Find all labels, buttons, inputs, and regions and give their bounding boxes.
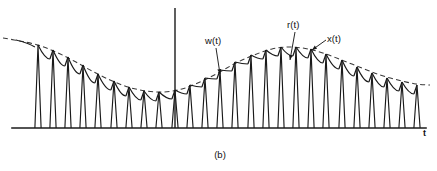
sampling-pulse [278,47,284,128]
label-rt: r(t) [287,19,300,30]
sampling-pulse [339,60,345,128]
label-xt: x(t) [327,33,341,44]
sampling-waveform-figure: w(t) r(t) x(t) t (b) [0,0,437,171]
decay-segment [251,55,263,59]
decay-segment [114,81,126,96]
sampling-pulse [35,45,41,128]
sampling-pulse [263,50,269,128]
decay-segment [53,50,65,66]
sampling-pulse [50,50,56,128]
decay-segment [159,92,172,99]
sampling-pulses-xt [35,45,420,128]
sampling-pulse [80,65,86,128]
sampling-pulse [232,62,238,128]
axis-label-t: t [423,128,426,138]
decay-segment [266,50,278,56]
decay-segment [342,60,354,76]
sampling-pulse [354,67,360,128]
leader-arrowhead-x [312,46,317,50]
figure-caption: (b) [214,149,226,160]
sampling-pulse [293,47,299,128]
sampling-pulse [248,55,254,128]
decay-segment [235,62,248,64]
sampling-pulse [217,70,223,128]
decay-segment [326,54,339,69]
decay-segment [311,49,323,63]
sampling-pulse [65,57,71,128]
leader-arrowhead-r [289,55,293,60]
figure-container: w(t) r(t) x(t) t (b) [0,0,437,171]
decay-segment [372,73,384,87]
decay-segment [175,90,187,94]
sampling-pulse [323,54,329,128]
label-wt: w(t) [204,35,221,46]
decay-segment [144,91,156,101]
decay-segment [68,57,80,74]
sampling-pulse [308,49,314,128]
decay-segment [357,67,369,82]
decay-segment [190,85,202,87]
decay-segment [83,65,95,83]
decay-segment [98,74,111,90]
sampling-pulse [369,73,375,128]
leading-decay-stub [16,40,35,47]
